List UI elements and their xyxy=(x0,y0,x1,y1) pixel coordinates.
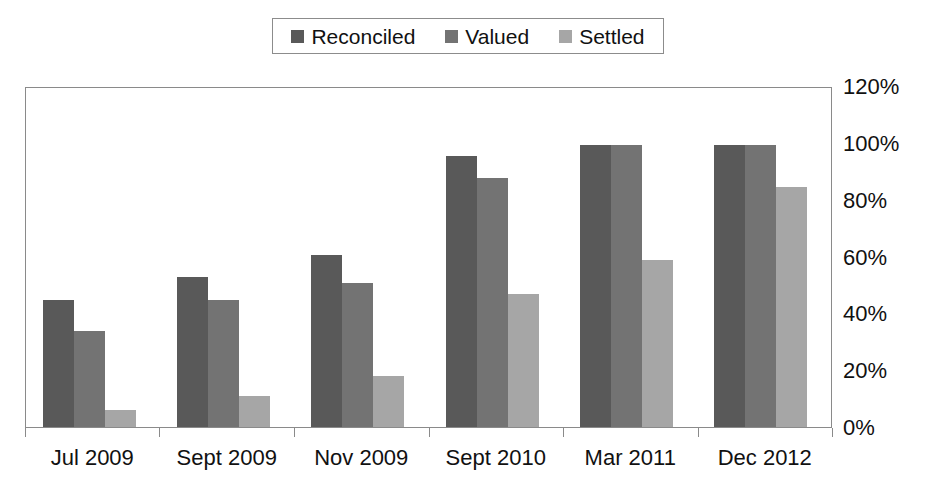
y-tick-label: 20% xyxy=(843,360,887,382)
y-axis: 0%20%40%60%80%100%120% xyxy=(843,87,923,428)
bar-group xyxy=(563,88,697,427)
x-axis: Jul 2009Sept 2009Nov 2009Sept 2010Mar 20… xyxy=(25,441,832,475)
bar-reconciled xyxy=(714,145,745,428)
bar-reconciled xyxy=(177,277,208,427)
x-tick-mark xyxy=(563,428,564,437)
bar-chart: Reconciled Valued Settled 0%20%40%60%80%… xyxy=(0,0,927,484)
legend-swatch-reconciled xyxy=(291,30,304,43)
legend-label-reconciled: Reconciled xyxy=(311,26,415,47)
bar-reconciled xyxy=(43,300,74,427)
bar-valued xyxy=(74,331,105,427)
bar-reconciled xyxy=(446,156,477,427)
x-axis-ticks xyxy=(25,428,832,437)
bar-group xyxy=(697,88,831,427)
bar-groups-container xyxy=(26,88,831,427)
bar-valued xyxy=(342,283,373,427)
bar-valued xyxy=(611,145,642,428)
bar-valued xyxy=(477,178,508,427)
y-tick-label: 0% xyxy=(843,417,875,439)
bar-group xyxy=(160,88,294,427)
x-category-label: Jul 2009 xyxy=(25,441,160,475)
bar-settled xyxy=(776,187,807,427)
legend-label-settled: Settled xyxy=(579,26,644,47)
legend-item-reconciled: Reconciled xyxy=(291,26,415,47)
legend-swatch-settled xyxy=(559,30,572,43)
x-tick-mark xyxy=(294,428,295,437)
x-category-label: Dec 2012 xyxy=(698,441,833,475)
legend-item-valued: Valued xyxy=(445,26,529,47)
bar-valued xyxy=(745,145,776,428)
x-tick-mark xyxy=(159,428,160,437)
legend-swatch-valued xyxy=(445,30,458,43)
chart-legend: Reconciled Valued Settled xyxy=(272,18,664,54)
bar-settled xyxy=(105,410,136,427)
legend-item-settled: Settled xyxy=(559,26,644,47)
y-tick-label: 60% xyxy=(843,247,887,269)
y-tick-label: 40% xyxy=(843,303,887,325)
bar-group xyxy=(294,88,428,427)
bar-group xyxy=(26,88,160,427)
bar-settled xyxy=(642,260,673,427)
bar-settled xyxy=(373,376,404,427)
y-tick-label: 100% xyxy=(843,133,899,155)
plot-area xyxy=(25,87,832,428)
y-tick-label: 80% xyxy=(843,190,887,212)
x-category-label: Sept 2009 xyxy=(160,441,295,475)
bar-reconciled xyxy=(580,145,611,428)
x-tick-mark xyxy=(25,428,26,437)
bar-valued xyxy=(208,300,239,427)
x-category-label: Sept 2010 xyxy=(429,441,564,475)
bar-reconciled xyxy=(311,255,342,427)
x-tick-mark xyxy=(832,428,833,437)
x-category-label: Nov 2009 xyxy=(294,441,429,475)
x-category-label: Mar 2011 xyxy=(563,441,698,475)
bar-settled xyxy=(508,294,539,427)
x-tick-mark xyxy=(429,428,430,437)
bar-settled xyxy=(239,396,270,427)
bar-group xyxy=(429,88,563,427)
y-tick-label: 120% xyxy=(843,76,899,98)
x-tick-mark xyxy=(698,428,699,437)
legend-label-valued: Valued xyxy=(465,26,529,47)
